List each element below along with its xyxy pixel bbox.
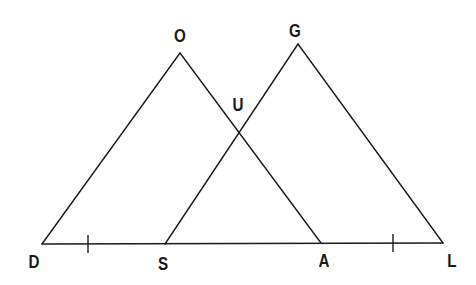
label-S: S (158, 252, 168, 274)
segment-DO (42, 53, 180, 244)
segment-OA (180, 53, 321, 243)
label-U: U (233, 93, 244, 115)
segment-DL (42, 243, 443, 244)
segment-SG (165, 44, 298, 244)
label-D: D (29, 250, 40, 272)
label-A: A (319, 249, 330, 271)
label-L: L (447, 249, 456, 271)
geometry-diagram: D S A L O G U (0, 0, 476, 285)
label-O: O (174, 24, 186, 46)
segment-GL (298, 44, 443, 243)
label-G: G (289, 19, 301, 41)
segments (42, 44, 443, 244)
